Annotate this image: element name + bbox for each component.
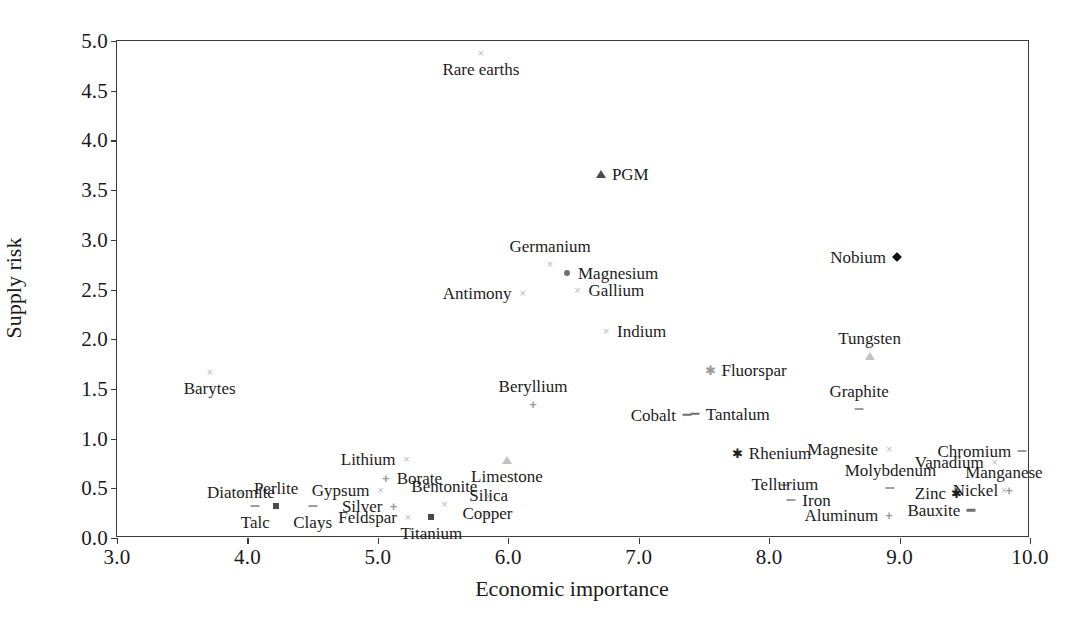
x-axis-tick-label: 8.0 bbox=[756, 545, 783, 570]
y-axis-tick bbox=[111, 41, 117, 42]
x-axis-tick bbox=[769, 538, 770, 544]
x-axis-tick-label: 4.0 bbox=[234, 545, 261, 570]
y-axis-tick-label: 4.0 bbox=[81, 128, 108, 153]
marker-dash-icon[interactable] bbox=[787, 499, 796, 501]
data-point-label: Clays bbox=[293, 513, 332, 533]
y-axis-tick bbox=[111, 190, 117, 191]
marker-x-icon[interactable]: × bbox=[547, 258, 553, 269]
data-point-label: Germanium bbox=[509, 237, 590, 257]
marker-triangle-icon[interactable] bbox=[502, 456, 512, 464]
marker-x-icon[interactable]: × bbox=[478, 47, 484, 58]
y-axis-tick bbox=[111, 140, 117, 141]
x-axis-tick bbox=[639, 538, 640, 544]
data-point-label: Antimony bbox=[443, 284, 512, 304]
marker-diamond-icon[interactable] bbox=[893, 253, 900, 260]
y-axis-tick-label: 3.0 bbox=[81, 227, 108, 252]
marker-x-icon[interactable]: × bbox=[206, 367, 212, 378]
y-axis-tick bbox=[111, 240, 117, 241]
data-point-label: Gallium bbox=[588, 281, 644, 301]
marker-x-icon[interactable]: × bbox=[405, 512, 411, 523]
marker-x-icon[interactable]: × bbox=[574, 284, 580, 295]
x-axis-tick-label: 5.0 bbox=[364, 545, 391, 570]
data-point-label: Tantalum bbox=[706, 405, 770, 425]
marker-star-icon[interactable]: ✱ bbox=[705, 364, 716, 377]
marker-x-icon[interactable]: × bbox=[519, 288, 525, 299]
marker-x-icon[interactable]: × bbox=[441, 499, 447, 510]
y-axis-tick-label: 2.0 bbox=[81, 327, 108, 352]
y-axis-tick-label: 0.5 bbox=[81, 476, 108, 501]
marker-plus-icon[interactable]: + bbox=[529, 397, 537, 410]
data-point-label: Barytes bbox=[184, 379, 236, 399]
x-axis-tick-label: 3.0 bbox=[104, 545, 131, 570]
data-point-label: Bentonite bbox=[411, 477, 477, 497]
marker-plus-icon[interactable]: + bbox=[1005, 484, 1013, 497]
y-axis-tick-label: 3.5 bbox=[81, 178, 108, 203]
scatter-plot-figure: 0.00.51.01.52.02.53.03.54.04.55.03.04.05… bbox=[0, 0, 1088, 626]
y-axis-tick bbox=[111, 91, 117, 92]
y-axis-tick-label: 2.5 bbox=[81, 277, 108, 302]
data-point-label: Talc bbox=[241, 513, 270, 533]
data-point-label: Magnesite bbox=[807, 440, 878, 460]
data-point-label: Nobium bbox=[830, 248, 886, 268]
data-point-label: Copper bbox=[462, 504, 512, 524]
marker-x-icon[interactable]: × bbox=[603, 326, 609, 337]
x-axis-tick-label: 10.0 bbox=[1011, 545, 1049, 570]
marker-x-icon[interactable]: × bbox=[403, 454, 409, 465]
marker-dash-icon[interactable] bbox=[855, 408, 864, 410]
marker-dash-icon[interactable] bbox=[308, 505, 317, 507]
y-axis-tick-label: 5.0 bbox=[81, 29, 108, 54]
marker-dot-icon[interactable] bbox=[564, 270, 570, 276]
x-axis-tick bbox=[508, 538, 509, 544]
x-axis-tick bbox=[378, 538, 379, 544]
data-point-label: Aluminum bbox=[804, 506, 878, 526]
data-point-label: Cobalt bbox=[631, 406, 676, 426]
y-axis-tick bbox=[111, 339, 117, 340]
marker-dash-icon[interactable] bbox=[682, 413, 691, 416]
marker-dash-icon[interactable] bbox=[251, 505, 260, 507]
data-point-label: Graphite bbox=[829, 382, 888, 402]
data-point-label: Indium bbox=[617, 322, 666, 342]
marker-dash-icon[interactable] bbox=[690, 413, 699, 416]
x-axis-tick-label: 9.0 bbox=[886, 545, 913, 570]
marker-dash-icon[interactable] bbox=[886, 487, 895, 489]
data-point-label: Tungsten bbox=[838, 329, 901, 349]
y-axis-tick-label: 1.0 bbox=[81, 426, 108, 451]
x-axis-tick bbox=[117, 538, 118, 544]
y-axis-title: Supply risk bbox=[1, 238, 27, 339]
data-point-label: Perlite bbox=[254, 479, 298, 499]
data-point-label: Fluorspar bbox=[721, 361, 786, 381]
x-axis-tick-label: 6.0 bbox=[495, 545, 522, 570]
marker-square-icon[interactable] bbox=[428, 514, 434, 520]
data-point-label: Limestone bbox=[471, 467, 543, 487]
marker-dash-icon[interactable] bbox=[1018, 450, 1027, 452]
data-point-label: Manganese bbox=[965, 463, 1042, 483]
marker-x-icon[interactable]: × bbox=[886, 443, 892, 454]
data-point-label: PGM bbox=[612, 165, 649, 185]
data-point-label: Rare earths bbox=[442, 60, 519, 80]
data-point-label: Titanium bbox=[400, 524, 462, 544]
y-axis-tick-label: 4.5 bbox=[81, 78, 108, 103]
marker-x-icon[interactable]: × bbox=[377, 485, 383, 496]
marker-plus-icon[interactable]: + bbox=[885, 509, 893, 522]
marker-dash-icon[interactable] bbox=[967, 509, 976, 512]
x-axis-tick bbox=[1030, 538, 1031, 544]
data-point-label: Beryllium bbox=[499, 377, 568, 397]
data-point-label: Nickel bbox=[953, 481, 998, 501]
x-axis-tick bbox=[900, 538, 901, 544]
y-axis-tick bbox=[111, 389, 117, 390]
marker-star-icon[interactable]: ✱ bbox=[732, 446, 743, 459]
x-axis-tick-label: 7.0 bbox=[625, 545, 652, 570]
data-point-label: Rhenium bbox=[749, 444, 811, 464]
x-axis-tick bbox=[247, 538, 248, 544]
data-point-label: Lithium bbox=[341, 450, 396, 470]
marker-triangle-icon[interactable] bbox=[596, 170, 606, 178]
y-axis-tick bbox=[111, 290, 117, 291]
marker-square-icon[interactable] bbox=[273, 503, 279, 509]
data-point-label: Molybdenum bbox=[845, 461, 937, 481]
y-axis-tick-label: 1.5 bbox=[81, 376, 108, 401]
y-axis-tick bbox=[111, 488, 117, 489]
marker-triangle-icon[interactable] bbox=[865, 352, 875, 360]
y-axis-tick bbox=[111, 439, 117, 440]
data-point-label: Bauxite bbox=[907, 501, 960, 521]
data-point-label: Feldspar bbox=[338, 508, 397, 528]
